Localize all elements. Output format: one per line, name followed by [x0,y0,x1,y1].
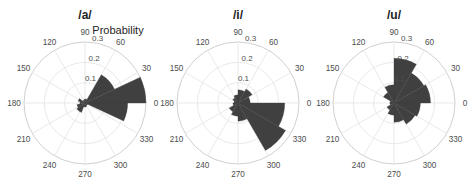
theta-tick-label: 300 [267,161,281,170]
theta-tick-label: 330 [449,135,463,144]
theta-tick-label: 210 [170,135,184,144]
theta-tick-label: 300 [423,161,437,170]
theta-tick-label: 60 [425,38,435,47]
theta-tick-label: 330 [140,135,154,144]
theta-tick-label: 210 [17,135,31,144]
theta-tick-label: 30 [295,64,305,73]
theta-tick-label: 150 [170,64,184,73]
plot-title: /a/ [78,8,92,22]
polar-plot-1: 03060901201501802102402703003300.10.20.3… [7,8,159,179]
theta-tick-label: 270 [78,170,92,179]
theta-tick-label: 0 [307,99,312,108]
histogram-bars [383,58,430,124]
theta-tick-label: 90 [80,28,90,37]
plot-title: /u/ [387,8,402,22]
theta-tick-label: 120 [43,38,57,47]
theta-tick-label: 180 [316,99,330,108]
theta-tick-label: 120 [196,38,210,47]
theta-tick-label: 240 [352,161,366,170]
theta-tick-label: 30 [451,64,461,73]
theta-tick-label: 240 [43,161,57,170]
theta-tick-label: 60 [269,38,279,47]
r-axis-label: Probability [92,24,144,36]
theta-tick-label: 60 [116,38,126,47]
theta-tick-label: 330 [293,135,307,144]
theta-tick-label: 150 [17,64,31,73]
theta-tick-label: 180 [7,99,21,108]
r-tick-label: 0.3 [401,34,413,43]
theta-tick-label: 300 [114,161,128,170]
r-tick-label: 0.2 [398,54,410,63]
theta-tick-label: 90 [233,28,243,37]
polar-histogram-figure: 03060901201501802102402703003300.10.20.3… [0,0,469,183]
histogram-bar [85,103,128,121]
theta-tick-label: 30 [142,64,152,73]
theta-tick-label: 210 [326,135,340,144]
theta-tick-label: 270 [387,170,401,179]
theta-tick-label: 0 [463,99,468,108]
theta-tick-label: 120 [352,38,366,47]
theta-tick-label: 0 [154,99,159,108]
r-tick-label: 0.1 [394,74,406,83]
theta-tick-label: 240 [196,161,210,170]
polar-plot-3: 03060901201501802102402703003300.10.20.3… [316,8,468,179]
theta-tick-label: 90 [389,28,399,37]
plot-title: /i/ [233,8,244,22]
r-tick-label: 0.2 [89,54,101,63]
r-tick-label: 0.1 [85,74,97,83]
r-tick-label: 0.2 [242,54,254,63]
theta-tick-label: 150 [326,64,340,73]
theta-tick-label: 180 [160,99,174,108]
figure-canvas: 03060901201501802102402703003300.10.20.3… [0,0,469,183]
theta-tick-label: 270 [231,170,245,179]
r-tick-label: 0.1 [238,74,250,83]
polar-plot-2: 03060901201501802102402703003300.10.20.3… [160,8,312,179]
r-tick-label: 0.3 [245,34,257,43]
